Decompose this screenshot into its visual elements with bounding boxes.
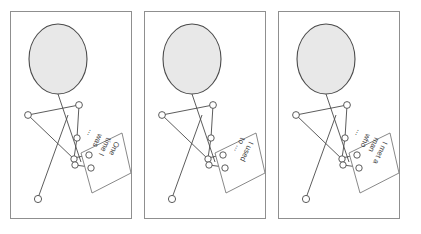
hand-lower-node bbox=[88, 165, 94, 171]
head-ellipse bbox=[163, 24, 221, 94]
shoulder-left-line bbox=[162, 105, 213, 115]
wrist-node bbox=[339, 156, 345, 162]
shoulder-left-node bbox=[293, 112, 300, 119]
shoulder-left-node bbox=[25, 112, 32, 119]
arm-left-line bbox=[28, 115, 75, 160]
panel-1-figure: One time I was ... bbox=[11, 12, 131, 218]
left-margin-spacer bbox=[0, 0, 10, 208]
leg-line bbox=[306, 115, 336, 198]
arm-left-line bbox=[162, 115, 209, 160]
hand-upper-node bbox=[354, 152, 360, 158]
story-card[interactable]: One time I was ... bbox=[80, 128, 131, 193]
shoulder-left-node bbox=[159, 112, 166, 119]
panel-2-figure: I used to ... bbox=[145, 12, 265, 218]
leg-line bbox=[172, 115, 202, 198]
head-ellipse bbox=[29, 24, 87, 94]
head-ellipse bbox=[297, 24, 355, 94]
panel-row: One time I was ... bbox=[0, 0, 421, 234]
hip-node bbox=[340, 162, 346, 168]
story-card[interactable]: I met a man who ... bbox=[346, 128, 399, 193]
hand-upper-node bbox=[220, 152, 226, 158]
panel-gap-2-3 bbox=[266, 0, 278, 208]
foot-node bbox=[302, 195, 309, 202]
elbow-node bbox=[342, 135, 348, 141]
arm-right-upper-line bbox=[77, 105, 79, 138]
arm-right-upper-line bbox=[211, 105, 213, 138]
right-margin-spacer bbox=[400, 0, 410, 208]
shoulder-right-node bbox=[76, 102, 83, 109]
shoulder-right-node bbox=[210, 102, 217, 109]
arm-right-upper-line bbox=[345, 105, 347, 138]
card-line-4: ... bbox=[353, 128, 364, 138]
foot-node bbox=[34, 195, 41, 202]
story-card[interactable]: I used to ... bbox=[215, 133, 265, 193]
hip-node bbox=[72, 162, 78, 168]
figure-root: One time I was ... bbox=[0, 0, 421, 234]
hand-upper-node bbox=[86, 152, 92, 158]
elbow-node bbox=[208, 135, 214, 141]
panel-one-time-i-was[interactable]: One time I was ... bbox=[10, 11, 132, 219]
panel-gap-1-2 bbox=[132, 0, 144, 208]
hip-node bbox=[206, 162, 212, 168]
shoulder-right-node bbox=[344, 102, 351, 109]
panel-i-used-to[interactable]: I used to ... bbox=[144, 11, 266, 219]
elbow-node bbox=[74, 135, 80, 141]
leg-line bbox=[38, 115, 68, 198]
panel-3-figure: I met a man who ... bbox=[279, 12, 399, 218]
foot-node bbox=[168, 195, 175, 202]
wrist-node bbox=[71, 156, 77, 162]
arm-left-line bbox=[296, 115, 343, 160]
shoulder-left-line bbox=[28, 105, 79, 115]
hand-lower-node bbox=[222, 165, 228, 171]
shoulder-left-line bbox=[296, 105, 347, 115]
panel-i-met-a-man-who[interactable]: I met a man who ... bbox=[278, 11, 400, 219]
card-line-4: ... bbox=[85, 128, 96, 138]
hand-lower-node bbox=[356, 165, 362, 171]
wrist-node bbox=[205, 156, 211, 162]
